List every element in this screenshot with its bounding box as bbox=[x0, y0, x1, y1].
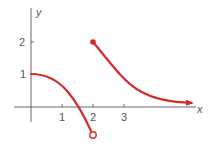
y-tick-label-2: 2 bbox=[19, 36, 25, 48]
x-tick-label-2: 2 bbox=[90, 111, 96, 123]
curve-piece-2 bbox=[93, 42, 192, 103]
x-axis-label: x bbox=[196, 103, 203, 115]
x-tick-label-1: 1 bbox=[59, 111, 65, 123]
x-tick-label-3: 3 bbox=[121, 111, 127, 123]
piecewise-function-graph: 1 2 3 1 2 x y bbox=[0, 0, 211, 154]
open-circle-endpoint bbox=[90, 132, 96, 138]
y-axis-label: y bbox=[35, 6, 43, 18]
filled-circle-endpoint bbox=[90, 39, 96, 45]
y-tick-label-1: 1 bbox=[20, 68, 26, 80]
